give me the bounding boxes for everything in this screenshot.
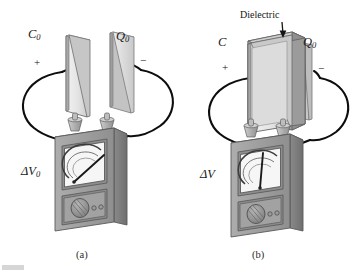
meter-knob-a [71, 199, 89, 218]
panel-caption-b: (b) [252, 249, 264, 260]
meter-port-a-1 [92, 206, 96, 210]
capacitor-label-b: C [218, 36, 226, 50]
page-edge-mark [2, 265, 24, 270]
minus-sign-a: − [140, 55, 146, 66]
minus-sign-b: − [318, 63, 324, 74]
panel-b [209, 22, 348, 237]
terminal-post-a-left [68, 113, 82, 131]
charge-label-a: Q0 [116, 30, 129, 44]
voltmeter-b [231, 119, 303, 237]
wire-loop-a-right [128, 70, 173, 136]
voltage-label-a: ΔV0 [21, 165, 40, 179]
meter-port-b-2 [275, 211, 279, 215]
wire-loop-b-right [310, 78, 348, 140]
panel-a [23, 32, 173, 231]
capacitor-plate-front-a [66, 35, 90, 117]
plus-sign-b: + [222, 62, 228, 73]
meter-knob-b [247, 205, 265, 224]
capacitor-dielectric-figure [0, 0, 355, 272]
panel-caption-a: (a) [76, 249, 88, 260]
charge-label-b: Q0 [303, 36, 316, 50]
voltmeter-a [55, 113, 127, 231]
meter-port-b-1 [268, 212, 272, 216]
capacitor-plate-back-a [110, 32, 134, 113]
dielectric-label: Dielectric [240, 9, 279, 20]
plus-sign-a: + [34, 57, 40, 68]
meter-port-a-2 [99, 205, 103, 209]
capacitor-label-a: C0 [28, 28, 41, 42]
capacitor-plate-front-b [248, 35, 292, 133]
voltage-label-b: ΔV [200, 168, 215, 182]
